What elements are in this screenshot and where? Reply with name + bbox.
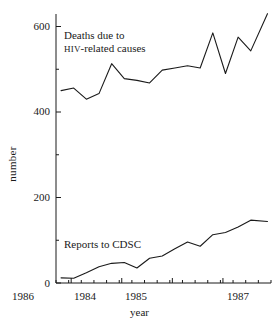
x-tick-label-1984: 1984 <box>62 290 108 302</box>
series-label-deaths: Deaths due to HIV-related causes <box>64 29 146 56</box>
y-axis-title: number <box>6 134 18 194</box>
hiv-label-rest: -related causes <box>81 42 146 54</box>
y-tick-label-200: 200 <box>16 191 50 203</box>
series-label-reports: Reports to CDSC <box>64 238 141 251</box>
x-tick-label-1986: 1986 <box>0 290 46 302</box>
x-tick-label-1985: 1985 <box>113 290 159 302</box>
y-tick-label-0: 0 <box>16 277 50 289</box>
y-tick-label-400: 400 <box>16 105 50 117</box>
x-tick-label-1987: 1987 <box>215 290 261 302</box>
x-axis-title: year <box>0 306 279 318</box>
hiv-small-caps: HIV <box>64 44 81 54</box>
series-label-deaths-line1: Deaths due to <box>64 29 146 42</box>
chart-figure: number year 600 400 200 0 1984 1985 1986… <box>0 0 279 324</box>
y-tick-label-600: 600 <box>16 20 50 32</box>
series-line-deaths <box>61 14 267 100</box>
series-label-deaths-line2: HIV-related causes <box>64 42 146 56</box>
